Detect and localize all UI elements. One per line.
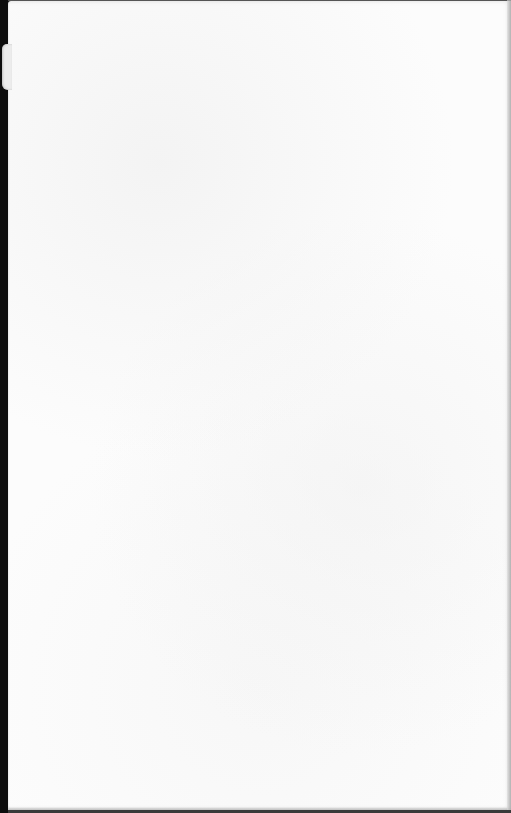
blank-page bbox=[8, 1, 511, 810]
scan-background bbox=[0, 0, 511, 813]
page-tab bbox=[2, 44, 12, 90]
page-right-edge bbox=[507, 0, 511, 813]
